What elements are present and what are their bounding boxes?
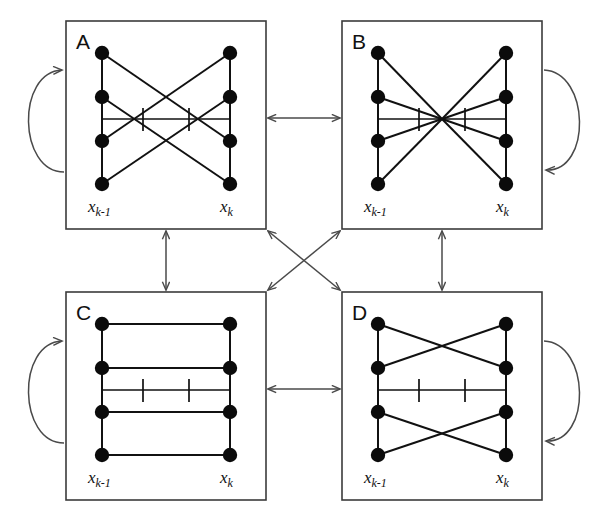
- panel-d-letter: D: [352, 301, 367, 324]
- panel-d-node-l3: [371, 405, 385, 419]
- panel-b-node-l4: [371, 177, 385, 191]
- panel-a[interactable]: A xk-1: [66, 21, 266, 229]
- self-loop-b[interactable]: [544, 70, 580, 170]
- panel-d-left-label-sub: k-1: [372, 476, 387, 490]
- panel-b-node-r3: [499, 134, 513, 148]
- panel-a-node-l1: [95, 46, 109, 60]
- panel-a-node-r3: [223, 134, 237, 148]
- panel-a-node-l2: [95, 90, 109, 104]
- panel-d-node-r3: [499, 405, 513, 419]
- panel-d-node-r1: [499, 317, 513, 331]
- panel-d-node-l2: [371, 361, 385, 375]
- panel-b-node-r1: [499, 46, 513, 60]
- panel-b[interactable]: B xk-1: [342, 21, 542, 229]
- panel-a-node-l4: [95, 177, 109, 191]
- figure-root: A xk-1: [0, 0, 597, 516]
- panel-c-node-l2: [95, 361, 109, 375]
- panel-c-node-r2: [223, 361, 237, 375]
- panel-a-node-r4: [223, 177, 237, 191]
- panel-b-node-l1: [371, 46, 385, 60]
- panel-a-left-label-sub: k-1: [96, 205, 111, 219]
- self-loop-d[interactable]: [544, 341, 580, 441]
- panel-d-node-l1: [371, 317, 385, 331]
- panel-d-node-r4: [499, 448, 513, 462]
- panel-a-right-label-sub: k: [228, 205, 234, 219]
- panel-b-node-l3: [371, 134, 385, 148]
- panel-d[interactable]: D xk-1 xk: [342, 292, 542, 500]
- panel-c-left-label-sub: k-1: [96, 476, 111, 490]
- panel-d-right-label-sub: k: [504, 476, 510, 490]
- panel-c-node-l1: [95, 317, 109, 331]
- panel-c-node-r1: [223, 317, 237, 331]
- panel-c-node-l4: [95, 448, 109, 462]
- panel-b-letter: B: [352, 30, 366, 53]
- panel-b-node-r2: [499, 90, 513, 104]
- panel-c-letter: C: [76, 301, 91, 324]
- panel-b-left-label-sub: k-1: [372, 205, 387, 219]
- panel-b-right-label-sub: k: [504, 205, 510, 219]
- panel-a-node-l3: [95, 134, 109, 148]
- panel-d-node-l4: [371, 448, 385, 462]
- panel-c-node-r4: [223, 448, 237, 462]
- self-loop-a[interactable]: [28, 70, 64, 172]
- panel-a-letter: A: [76, 30, 90, 53]
- self-loop-c[interactable]: [28, 341, 64, 443]
- panel-d-node-r2: [499, 361, 513, 375]
- panel-b-node-l2: [371, 90, 385, 104]
- panel-c-right-label-sub: k: [228, 476, 234, 490]
- figure-canvas: A xk-1: [0, 0, 597, 516]
- panel-a-node-r1: [223, 46, 237, 60]
- panel-c[interactable]: C xk-1 xk: [66, 292, 266, 500]
- panel-b-node-r4: [499, 177, 513, 191]
- panel-c-node-l3: [95, 405, 109, 419]
- panel-c-node-r3: [223, 405, 237, 419]
- panel-a-node-r2: [223, 90, 237, 104]
